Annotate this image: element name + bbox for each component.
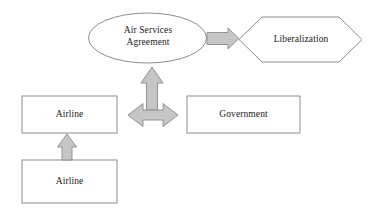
- node-shape-air-services-agreement[interactable]: [89, 13, 207, 63]
- node-shape-airline-lower[interactable]: [22, 160, 117, 203]
- arrow-asa-to-liberalization-icon[interactable]: [207, 28, 239, 49]
- node-shape-government[interactable]: [187, 96, 300, 133]
- node-shape-airline-upper[interactable]: [22, 96, 117, 133]
- node-shape-liberalization[interactable]: [239, 17, 362, 62]
- arrow-airline-lower-to-upper-icon[interactable]: [58, 134, 77, 160]
- diagram-shapes: [0, 0, 372, 213]
- arrow-up-to-asa-icon[interactable]: [141, 67, 163, 110]
- diagram-canvas: Air Services Agreement Liberalization Ai…: [0, 0, 372, 213]
